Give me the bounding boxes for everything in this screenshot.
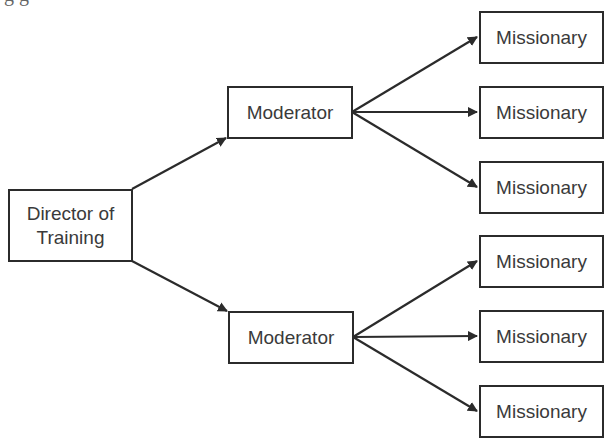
moderator-node-1: Moderator: [227, 86, 353, 139]
director-of-training-node: Director of Training: [8, 189, 133, 262]
missionary-node-3: Missionary: [479, 161, 604, 214]
arrow-moderator-1-to-missionary-3: [352, 112, 477, 187]
missionary-label: Missionary: [496, 400, 587, 424]
missionary-label: Missionary: [496, 250, 587, 274]
moderator-node-2: Moderator: [228, 311, 354, 364]
missionary-node-2: Missionary: [479, 86, 604, 139]
missionary-node-5: Missionary: [479, 310, 604, 363]
arrow-moderator-2-to-missionary-6: [353, 337, 477, 411]
arrow-moderator-2-to-missionary-4: [353, 261, 477, 337]
missionary-label: Missionary: [496, 101, 587, 125]
missionary-node-4: Missionary: [479, 235, 604, 288]
missionary-label: Missionary: [496, 325, 587, 349]
missionary-label: Missionary: [496, 176, 587, 200]
moderator-label: Moderator: [248, 326, 335, 350]
arrow-director-to-moderator-1: [132, 138, 226, 189]
arrow-director-to-moderator-2: [132, 261, 227, 311]
arrow-moderator-2-to-missionary-5: [353, 336, 477, 337]
director-label-line2: Training: [37, 226, 105, 250]
missionary-label: Missionary: [496, 26, 587, 50]
director-label-line1: Director of: [27, 202, 115, 226]
arrow-moderator-1-to-missionary-1: [352, 37, 477, 112]
missionary-node-1: Missionary: [479, 11, 604, 64]
missionary-node-6: Missionary: [479, 385, 604, 438]
moderator-label: Moderator: [247, 101, 334, 125]
